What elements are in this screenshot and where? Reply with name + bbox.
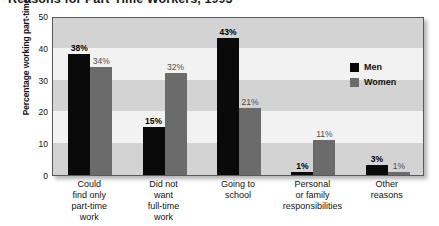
bar-value-label: 32%: [167, 62, 184, 72]
x-axis-category-labels: Couldfind onlypart-timeworkDid notwantfu…: [52, 179, 424, 226]
x-label-line: full-time: [126, 201, 200, 212]
legend-item-men: Men: [350, 62, 396, 72]
bar-women-2: 32%: [165, 73, 187, 175]
x-label-line: or family: [275, 190, 349, 201]
bar-value-label: 21%: [241, 97, 258, 107]
y-tick-20: 20: [6, 107, 48, 117]
y-tick-50: 50: [6, 12, 48, 22]
bar-value-label: 3%: [371, 154, 383, 164]
y-axis-tick-labels: 01020304050: [0, 17, 48, 176]
legend-swatch-men: [350, 63, 359, 72]
x-label-line: work: [126, 212, 200, 223]
bar-women-1: 34%: [90, 67, 112, 175]
y-tick-10: 10: [6, 139, 48, 149]
x-label-line: Personal: [275, 179, 349, 190]
bar-women-4: 11%: [313, 140, 335, 175]
y-tick-0: 0: [6, 171, 48, 181]
legend-item-women: Women: [350, 77, 396, 87]
x-label-line: reasons: [350, 190, 424, 201]
bar-men-3: 43%: [217, 38, 239, 175]
bar-men-4: 1%: [291, 172, 313, 175]
bar-value-label: 34%: [93, 56, 110, 66]
x-label-4: Personalor familyresponsibilities: [275, 179, 349, 212]
x-label-line: work: [52, 212, 126, 223]
bars-layer: 38%34%15%32%43%21%1%11%3%1%: [53, 18, 423, 175]
plot-area: 38%34%15%32%43%21%1%11%3%1% MenWomen: [52, 17, 424, 176]
bar-women-3: 21%: [239, 108, 261, 175]
x-label-5: Otherreasons: [350, 179, 424, 201]
x-label-line: responsibilities: [275, 201, 349, 212]
legend-swatch-women: [350, 78, 359, 87]
bar-value-label: 43%: [219, 27, 236, 37]
bar-value-label: 15%: [145, 116, 162, 126]
bar-value-label: 11%: [316, 129, 332, 139]
x-label-line: Did not: [126, 179, 200, 190]
bar-men-5: 3%: [366, 165, 388, 175]
legend-label: Women: [364, 77, 396, 87]
bar-value-label: 1%: [296, 161, 308, 171]
x-label-line: find only: [52, 190, 126, 201]
bar-men-1: 38%: [68, 54, 90, 175]
x-label-3: Going toschool: [201, 179, 275, 201]
bar-value-label: 38%: [71, 43, 88, 53]
x-label-2: Did notwantfull-timework: [126, 179, 200, 223]
bar-men-2: 15%: [143, 127, 165, 175]
x-label-line: part-time: [52, 201, 126, 212]
x-label-line: school: [201, 190, 275, 201]
chart-title: Reasons for Part-Time Workers, 1995: [8, 0, 233, 6]
chart-figure: Reasons for Part-Time Workers, 1995 Perc…: [0, 0, 439, 226]
y-tick-40: 40: [6, 44, 48, 54]
x-label-line: Could: [52, 179, 126, 190]
legend-label: Men: [364, 62, 382, 72]
chart-legend: MenWomen: [350, 62, 396, 87]
x-label-line: want: [126, 190, 200, 201]
x-label-line: Going to: [201, 179, 275, 190]
bar-women-5: 1%: [388, 172, 410, 175]
y-tick-30: 30: [6, 76, 48, 86]
bar-value-label: 1%: [393, 161, 405, 171]
x-label-line: Other: [350, 179, 424, 190]
x-label-1: Couldfind onlypart-timework: [52, 179, 126, 223]
